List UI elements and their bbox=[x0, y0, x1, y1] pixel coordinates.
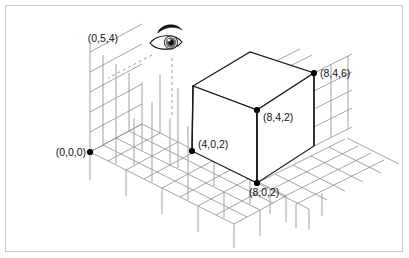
vertex-dot-origin bbox=[87, 149, 93, 155]
figure-root: (0,5,4) (0,0,0) (4,0,2) (8,0,2) (8,4,2) … bbox=[0, 0, 409, 258]
vertex-dot-right-top bbox=[311, 70, 317, 76]
eye-icon bbox=[150, 25, 182, 50]
eye-highlight bbox=[168, 39, 171, 42]
eyebrow-shape bbox=[158, 25, 182, 33]
vertex-label-front-top: (8,4,2) bbox=[263, 111, 293, 123]
vertex-label-right-top: (8,4,6) bbox=[320, 67, 350, 79]
vertex-label-front-left: (4,0,2) bbox=[198, 138, 228, 150]
diagram-canvas: (0,5,4) (0,0,0) (4,0,2) (8,0,2) (8,4,2) … bbox=[0, 0, 409, 258]
vertex-label-origin: (0,0,0) bbox=[56, 146, 86, 158]
vertex-dot-front-left bbox=[189, 148, 195, 154]
cube-left-edge bbox=[192, 86, 193, 151]
vertex-label-front-bottom: (8,0,2) bbox=[249, 186, 279, 198]
viewpoint-label: (0,5,4) bbox=[88, 32, 118, 44]
vertex-dot-front-top bbox=[254, 107, 260, 113]
